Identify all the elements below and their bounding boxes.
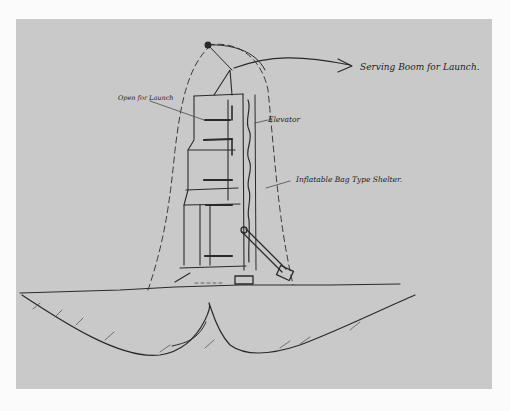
sketch-drawing: Serving Boom for Launch. Open for Launch… — [0, 0, 510, 411]
label-open-for-launch: Open for Launch — [118, 94, 173, 102]
arrow-head-icon — [338, 59, 352, 72]
tower-body — [175, 70, 246, 282]
label-elevator: Elevator — [267, 115, 301, 124]
servicing-boom-arrow — [234, 58, 350, 68]
boom-arc — [208, 45, 265, 70]
leader-open-for-launch — [150, 101, 204, 120]
pit-hatching — [33, 303, 360, 352]
tower-mast — [255, 95, 256, 270]
leader-elevator — [255, 120, 268, 123]
inflatable-shelter-outline — [148, 48, 208, 290]
leader-shelter — [266, 181, 290, 188]
label-servicing-boom: Serving Boom for Launch. — [360, 62, 480, 72]
label-inflatable-shelter: Inflatable Bag Type Shelter. — [295, 175, 402, 184]
ground-line — [20, 284, 400, 293]
boom-strut — [208, 45, 232, 70]
